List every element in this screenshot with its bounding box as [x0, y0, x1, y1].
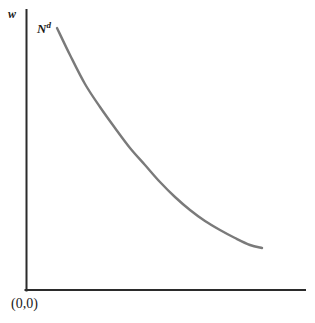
- figure-background: [0, 0, 315, 323]
- origin-label: (0,0): [11, 297, 38, 311]
- labor-demand-figure: w Nd (0,0): [0, 0, 315, 323]
- y-axis-label: w: [8, 8, 16, 20]
- curve-label-base: N: [37, 21, 46, 36]
- curve-label-superscript: d: [46, 20, 51, 30]
- figure-canvas: [0, 0, 315, 323]
- demand-curve-label: Nd: [37, 22, 51, 35]
